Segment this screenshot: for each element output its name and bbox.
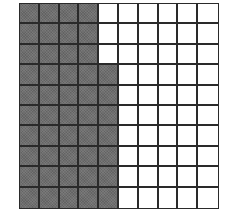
grid-cell-empty [178,106,198,126]
grid-cell-empty [139,4,159,24]
grid-cell-empty [178,147,198,167]
grid-cell-empty [159,65,179,85]
grid-cell-empty [159,147,179,167]
grid-cell-shaded [20,147,40,167]
grid-cell-empty [159,126,179,146]
grid-cell-empty [159,45,179,65]
grid-cell-empty [178,188,198,208]
grid-cell-empty [159,167,179,187]
grid-cell-empty [119,86,139,106]
grid-cell-shaded [60,126,80,146]
grid-cell-shaded [40,45,60,65]
grid-cell-shaded [79,24,99,44]
grid-cell-shaded [20,86,40,106]
grid-cell-shaded [40,167,60,187]
grid-cell-shaded [60,188,80,208]
grid-cell-shaded [60,65,80,85]
grid-cell-shaded [79,188,99,208]
grid-cell-shaded [20,45,40,65]
grid-cell-shaded [99,126,119,146]
grid-cell-empty [178,45,198,65]
grid-cell-shaded [60,167,80,187]
grid-cell-empty [139,188,159,208]
grid-cell-empty [139,167,159,187]
grid-cell-empty [139,126,159,146]
grid-cell-shaded [60,45,80,65]
grid-cell-shaded [60,147,80,167]
grid-cell-shaded [79,65,99,85]
grid-cell-empty [119,24,139,44]
grid-cell-shaded [20,126,40,146]
grid-cell-shaded [79,86,99,106]
grid-cell-shaded [60,24,80,44]
grid-cell-empty [139,86,159,106]
grid-cell-empty [178,65,198,85]
grid-cell-shaded [60,4,80,24]
grid-cell-empty [198,147,218,167]
grid-cell-empty [139,24,159,44]
grid-cell-shaded [40,126,60,146]
grid-cell-empty [99,24,119,44]
grid-cell-empty [198,45,218,65]
grid-cell-empty [139,45,159,65]
grid-cell-empty [198,65,218,85]
grid-cell-shaded [79,126,99,146]
grid-cell-empty [198,86,218,106]
grid-cell-empty [198,126,218,146]
grid-cell-empty [198,188,218,208]
grid-cell-shaded [40,86,60,106]
grid-cell-shaded [20,65,40,85]
grid-cell-empty [198,167,218,187]
grid-cell-empty [198,4,218,24]
grid-cell-shaded [79,147,99,167]
grid-cell-empty [159,106,179,126]
grid-cell-empty [198,106,218,126]
grid-cell-shaded [20,4,40,24]
grid-cell-shaded [40,4,60,24]
grid-cell-shaded [99,106,119,126]
grid-cell-shaded [60,106,80,126]
grid-cell-empty [119,147,139,167]
grid-cell-empty [178,126,198,146]
grid-cell-empty [99,45,119,65]
grid-cell-empty [119,65,139,85]
grid-cell-shaded [99,167,119,187]
grid-cell-empty [159,4,179,24]
grid-cell-empty [159,86,179,106]
grid-cell-empty [119,106,139,126]
grid-cell-shaded [40,147,60,167]
grid-cell-empty [119,4,139,24]
grid-cell-shaded [20,188,40,208]
grid-cell-empty [139,106,159,126]
grid-cell-empty [178,24,198,44]
grid-cell-shaded [79,106,99,126]
grid-cell-empty [198,24,218,44]
grid-cell-shaded [99,65,119,85]
grid-cell-empty [99,4,119,24]
grid-cell-shaded [79,4,99,24]
grid-cell-empty [178,86,198,106]
grid-cell-shaded [40,65,60,85]
grid-cell-empty [159,188,179,208]
grid-cell-empty [119,45,139,65]
grid-cell-empty [159,24,179,44]
grid-cell-shaded [99,188,119,208]
grid-cell-empty [139,147,159,167]
grid-cell-shaded [60,86,80,106]
grid-cell-shaded [99,86,119,106]
grid-cell-empty [119,126,139,146]
grid-cell-empty [119,188,139,208]
grid-cell-shaded [20,106,40,126]
grid-cell-shaded [40,106,60,126]
grid-cell-empty [178,4,198,24]
grid-cell-shaded [79,45,99,65]
grid-cell-shaded [20,167,40,187]
grid-cell-shaded [99,147,119,167]
grid-cell-shaded [40,24,60,44]
grid-cell-shaded [20,24,40,44]
grid-cell-empty [178,167,198,187]
hundred-grid [19,3,219,209]
grid-cell-shaded [79,167,99,187]
grid-cell-shaded [40,188,60,208]
grid-cell-empty [119,167,139,187]
